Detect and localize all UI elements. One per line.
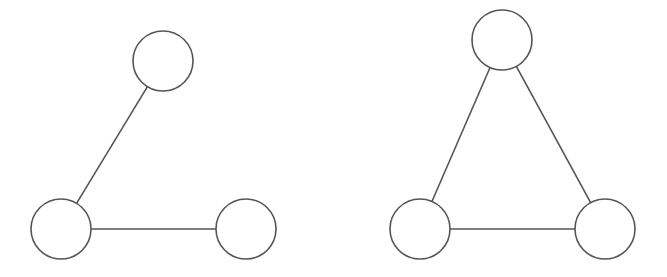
graph-right: [390, 10, 635, 259]
graph-node: [390, 199, 450, 259]
graph-left: [31, 31, 276, 259]
graph-node: [575, 199, 635, 259]
graph-edge: [432, 68, 490, 202]
graph-node: [216, 199, 276, 259]
graph-node: [472, 10, 532, 70]
graph-edge: [77, 87, 148, 204]
graph-node: [31, 199, 91, 259]
graph-edge: [516, 66, 590, 202]
diagram-canvas: [0, 0, 667, 277]
graph-node: [133, 31, 193, 91]
graph-diagram: [0, 0, 667, 277]
